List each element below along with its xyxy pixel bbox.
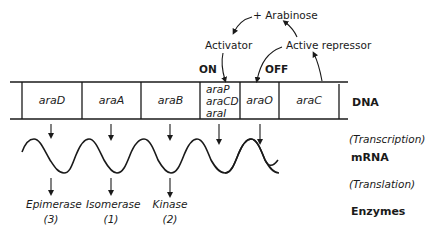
enzyme-isomerase: Isomerase — [86, 199, 136, 210]
activator-label: Activator — [205, 40, 252, 51]
regulatory-region: araP araCD araI — [206, 83, 239, 119]
enzymes-label: Enzymes — [351, 206, 405, 217]
gene-araA: araA — [82, 95, 141, 106]
active-repressor-label: Active repressor — [286, 40, 371, 51]
mrna-label: mRNA — [351, 152, 389, 163]
enzyme-epimerase: Epimerase — [26, 199, 76, 210]
gene-araD: araD — [22, 95, 82, 106]
gene-araC: araC — [279, 95, 339, 106]
gene-araP: araP — [206, 83, 239, 95]
translation-label: (Translation) — [349, 179, 415, 190]
transcription-arrows — [51, 124, 260, 142]
enzyme-epimerase-number: (3) — [26, 214, 76, 225]
dna-label: DNA — [352, 97, 379, 108]
gene-araB: araB — [141, 95, 200, 106]
translation-arrows — [51, 178, 170, 195]
mrna-wave — [22, 139, 279, 173]
arrow-arabinose-to-activator — [234, 17, 252, 32]
enzyme-kinase: Kinase — [145, 199, 195, 210]
arabinose-label: + Arabinose — [253, 10, 318, 21]
gene-araI: araI — [206, 107, 239, 119]
gene-araCD: araCD — [206, 95, 239, 107]
enzyme-kinase-number: (2) — [145, 214, 195, 225]
arrow-araC-to-repressor — [314, 54, 322, 81]
off-label: OFF — [265, 64, 288, 75]
on-label: ON — [199, 64, 217, 75]
transcription-label: (Transcription) — [349, 134, 425, 145]
arrow-repressor-to-arabinose — [285, 22, 297, 37]
enzyme-isomerase-number: (1) — [86, 214, 136, 225]
arrow-activator-to-ON — [222, 53, 225, 80]
gene-araO: araO — [240, 95, 279, 106]
